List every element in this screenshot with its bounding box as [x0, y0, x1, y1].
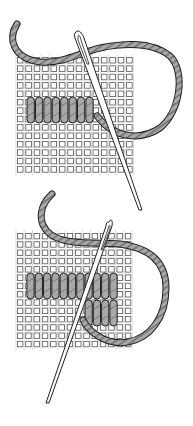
panel-step-1	[13, 24, 179, 210]
panel-step-2	[16, 194, 166, 403]
needlepoint-illustration	[0, 0, 193, 426]
